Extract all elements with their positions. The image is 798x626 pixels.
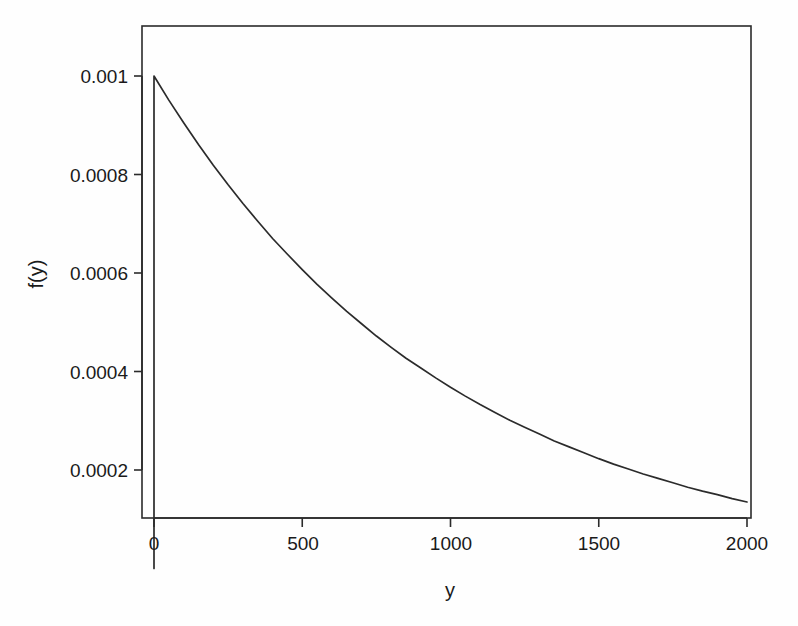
ytick-label-2: 0.0006 [0,264,128,283]
y-axis-title: f(y) [26,260,46,289]
xtick-label-3: 1500 [578,534,620,553]
plot-frame-box [142,26,751,518]
ytick-label-4: 0.001 [0,67,128,86]
plot-canvas [0,0,798,626]
xtick-label-4: 2000 [726,534,768,553]
ytick-label-0: 0.0002 [0,461,128,480]
xtick-label-0: 0 [149,534,160,553]
xtick-label-1: 500 [287,534,319,553]
chart-figure: 0.0002 0.0004 0.0006 0.0008 0.001 0 500 … [0,0,798,626]
x-axis-title: y [445,580,455,600]
x-axis [154,518,747,527]
exponential-density-curve [154,76,747,569]
y-axis [134,76,142,470]
ytick-label-1: 0.0004 [0,363,128,382]
ytick-label-3: 0.0008 [0,166,128,185]
xtick-label-2: 1000 [430,534,472,553]
